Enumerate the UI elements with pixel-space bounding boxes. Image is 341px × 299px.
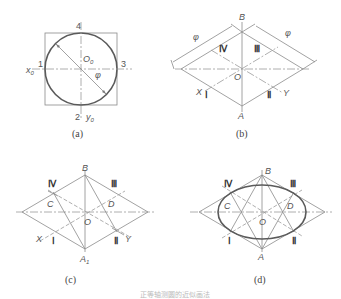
label-y: Y <box>125 234 132 244</box>
isometric-circle-diagram: 4 1 3 2 x0 y0 O0 φ (a) φ φ B A O Ⅳ Ⅲ Ⅰ Ⅱ… <box>0 0 341 299</box>
label-iii: Ⅲ <box>111 179 117 189</box>
panel-a: 4 1 3 2 x0 y0 O0 φ (a) <box>25 21 132 140</box>
label-ii: Ⅱ <box>114 236 118 246</box>
caption-d: (d) <box>254 274 266 286</box>
line-a-iv <box>230 192 262 249</box>
line-b-i <box>230 175 262 232</box>
label-iii: Ⅲ <box>254 44 260 54</box>
label-d: D <box>108 199 115 209</box>
label-ii: Ⅱ <box>267 90 271 100</box>
label-4: 4 <box>76 21 81 31</box>
caption-c: (c) <box>65 274 76 286</box>
label-o: O <box>84 217 91 227</box>
ext-line <box>303 60 317 69</box>
label-o0: O0 <box>83 54 94 65</box>
ext-line <box>231 24 242 32</box>
label-x: X <box>35 234 43 244</box>
x-axis <box>205 47 278 91</box>
label-ii: Ⅱ <box>292 236 296 246</box>
label-iv: Ⅳ <box>48 179 57 189</box>
label-2: 2 <box>75 112 80 122</box>
label-o: O <box>234 72 241 82</box>
panel-c: B A1 O C D Ⅳ Ⅲ Ⅰ Ⅱ X Y (c) <box>16 163 156 286</box>
label-iv: Ⅳ <box>224 179 233 189</box>
label-b: B <box>82 163 88 173</box>
label-a: A <box>257 252 264 262</box>
panel-b: φ φ B A O Ⅳ Ⅲ Ⅰ Ⅱ X Y (b) <box>171 12 317 140</box>
label-c: C <box>47 199 54 209</box>
label-a1: A1 <box>79 254 89 265</box>
panel-d: B A O C D Ⅳ Ⅲ Ⅰ Ⅱ (d) <box>190 166 332 286</box>
tick <box>112 228 124 235</box>
label-d: D <box>287 201 294 211</box>
label-b: B <box>239 12 245 22</box>
label-x0: x0 <box>25 65 35 76</box>
label-x: X <box>195 87 203 97</box>
dim-label-left: φ <box>193 32 199 42</box>
caption-a: (a) <box>72 128 83 140</box>
dim-label-right: φ <box>285 28 291 38</box>
line-a1-iv <box>53 192 85 249</box>
figure-caption: 正等轴测圆的近似画法 <box>140 290 210 299</box>
y-axis <box>48 190 130 237</box>
label-y0: y0 <box>85 112 95 123</box>
label-b: B <box>265 166 271 176</box>
label-1: 1 <box>38 59 43 69</box>
label-iv: Ⅳ <box>219 44 228 54</box>
label-o: O <box>259 217 266 227</box>
label-i: Ⅰ <box>52 236 55 246</box>
label-diameter: φ <box>95 70 101 80</box>
y-axis <box>211 50 283 93</box>
label-3: 3 <box>121 59 126 69</box>
label-i: Ⅰ <box>205 90 208 100</box>
ext-line <box>242 24 255 32</box>
label-i: Ⅰ <box>228 236 231 246</box>
label-y: Y <box>283 88 290 98</box>
label-a: A <box>237 111 244 121</box>
caption-b: (b) <box>236 128 248 140</box>
label-iii: Ⅲ <box>290 179 296 189</box>
label-c: C <box>224 201 231 211</box>
